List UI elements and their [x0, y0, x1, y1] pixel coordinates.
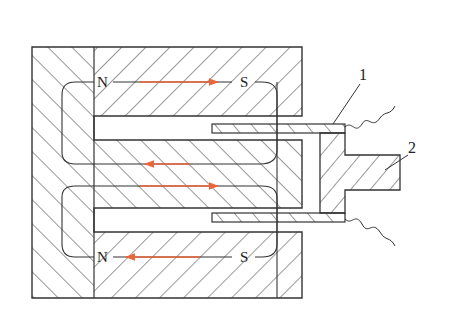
pole-label-n-bottom: N: [97, 249, 108, 265]
leader-line-1: [333, 84, 360, 124]
left-yoke: [32, 47, 94, 298]
pole-label-s-bottom: S: [240, 249, 248, 265]
pole-label-s-top: S: [240, 74, 248, 90]
armature: [320, 133, 400, 213]
magnetic-circuit-diagram: N S N S 1 2: [0, 0, 464, 333]
lower-magnet: [94, 232, 302, 298]
pole-label-n-top: N: [97, 74, 108, 90]
middle-core: [94, 140, 302, 208]
lead-wire-top: [345, 106, 395, 128]
part-label-2: 2: [408, 139, 416, 156]
lead-wire-bottom: [345, 219, 395, 246]
coil-plate-bottom: [212, 213, 345, 222]
coil-plate-top: [212, 124, 345, 133]
part-label-1: 1: [359, 66, 367, 83]
